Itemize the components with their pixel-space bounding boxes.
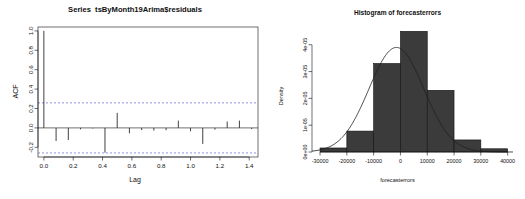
acf-y-tick-label: 0.4 (28, 84, 35, 93)
histogram-bar (347, 131, 374, 152)
acf-y-tick-label: 0.6 (28, 65, 35, 74)
acf-x-axis-title: Lag (0, 176, 270, 183)
acf-y-axis-title: ACF (12, 72, 19, 112)
histogram-x-tick-label: 40000 (500, 158, 515, 164)
histogram-svg-canvas: -30000-20000-100000100002000030000400000… (270, 0, 525, 199)
acf-y-tick-label: 0.0 (28, 123, 35, 132)
acf-svg-canvas: 0.00.20.40.60.81.01.21.4-0.20.00.20.40.6… (0, 0, 270, 199)
histogram-y-tick-label: 3e-05 (302, 65, 308, 79)
acf-x-tick-label: 1.2 (216, 162, 225, 169)
figure-root: Series tsByMonth19Arima$residuals 0.00.2… (0, 0, 525, 199)
histogram-y-tick-label: 0e+00 (302, 144, 308, 159)
acf-x-tick-label: 0.0 (40, 162, 49, 169)
acf-y-tick-label: -0.2 (28, 141, 35, 152)
histogram-y-axis-title: Density (278, 71, 284, 121)
acf-bar-group (44, 31, 252, 153)
acf-y-tick-label: 1.0 (28, 26, 35, 35)
acf-x-tick-label: 0.8 (157, 162, 166, 169)
acf-x-tick-label: 0.4 (98, 162, 107, 169)
acf-y-tick-label: 0.2 (28, 104, 35, 113)
histogram-plot-panel: Histogram of forecasterrors -30000-20000… (270, 0, 525, 199)
histogram-y-tick-label: 2e-05 (302, 91, 308, 105)
histogram-y-tick-label: 4e-05 (302, 38, 308, 52)
histogram-y-tick-label: 1e-05 (302, 118, 308, 132)
histogram-x-tick-label: -30000 (312, 158, 329, 164)
histogram-x-tick-label: 10000 (420, 158, 435, 164)
histogram-x-axis-title: forecasterrors (270, 177, 525, 183)
acf-plot-panel: Series tsByMonth19Arima$residuals 0.00.2… (0, 0, 270, 199)
histogram-bar (400, 31, 427, 152)
histogram-bar (374, 64, 401, 152)
histogram-bar-group (320, 31, 508, 152)
histogram-bar (427, 90, 454, 152)
acf-x-tick-label: 1.0 (186, 162, 195, 169)
histogram-x-tick-label: 0 (399, 158, 402, 164)
acf-x-tick-label: 1.4 (245, 162, 254, 169)
histogram-x-tick-label: -20000 (338, 158, 355, 164)
acf-y-tick-label: 0.8 (28, 45, 35, 54)
acf-x-tick-label: 0.2 (69, 162, 78, 169)
acf-x-tick-label: 0.6 (128, 162, 137, 169)
histogram-x-tick-label: -10000 (365, 158, 382, 164)
histogram-bar (454, 140, 481, 152)
histogram-x-tick-label: 30000 (473, 158, 488, 164)
acf-plot-frame (38, 27, 258, 157)
histogram-x-tick-label: 20000 (447, 158, 462, 164)
